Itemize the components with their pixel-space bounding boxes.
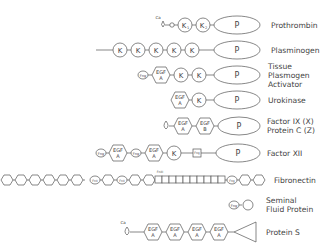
svg-text:Fng: Fng — [229, 179, 235, 183]
svg-text:Fng: Fng — [98, 152, 104, 156]
svg-text:Fng: Fng — [140, 74, 146, 78]
svg-text:FnII: FnII — [119, 179, 125, 183]
svg-text:Fng: Fng — [194, 151, 200, 155]
label-prothrombin: Prothrombin — [271, 21, 318, 30]
gla-drop-icon — [162, 21, 165, 27]
svg-text:A: A — [178, 100, 182, 106]
urokinase-diagram: EGF A K P — [171, 91, 260, 109]
svg-text:Fng: Fng — [231, 204, 237, 208]
label-urokinase: Urokinase — [268, 96, 306, 105]
svg-text:K: K — [172, 47, 177, 55]
svg-text:K: K — [197, 97, 202, 105]
protein-s-diagram: Ca EGF A EGF A EGF A EGF A — [120, 220, 256, 242]
factor-xii-diagram: Fng EGF A Fng EGF A K Fng P — [96, 144, 260, 162]
label-tpa-line2: Plasmogen — [268, 71, 310, 80]
svg-text:A: A — [173, 232, 177, 238]
label-tpa-line3: Activator — [268, 80, 302, 89]
seminal-fluid-protein-diagram: Fng — [229, 200, 253, 210]
svg-text:A: A — [151, 232, 155, 238]
svg-text:A: A — [159, 75, 163, 81]
svg-text:P: P — [235, 96, 240, 105]
label-seminal-line2: Fluid Protein — [266, 205, 313, 214]
label-protein-c: Protein C (Z) — [267, 126, 315, 135]
label-protein-s: Protein S — [266, 228, 300, 237]
svg-text:A: A — [217, 232, 221, 238]
fibronectin-diagram: FnII FnII FnIII Fng — [1, 170, 265, 185]
svg-text:A: A — [152, 153, 156, 159]
label-fibronectin: Fibronectin — [274, 176, 316, 185]
factor-ix-diagram: EGF A EGF B P — [164, 117, 260, 135]
label-plasminogen: Plasminogen — [271, 46, 320, 55]
label-factor-ix: Factor IX (X) — [267, 117, 314, 126]
svg-text:A: A — [116, 153, 120, 159]
loop-icon — [170, 23, 174, 27]
svg-text:K: K — [154, 47, 159, 55]
plasminogen-diagram: K K K K K P — [96, 41, 260, 59]
svg-text:K: K — [118, 47, 123, 55]
tpa-diagram: Fng EGF A K K P — [138, 66, 260, 84]
svg-text:P: P — [237, 122, 242, 131]
svg-text:P: P — [235, 46, 240, 55]
gla-drop-icon — [125, 227, 129, 235]
triangle-domain — [234, 222, 256, 242]
svg-text:Ca: Ca — [120, 220, 126, 225]
svg-text:K: K — [179, 72, 184, 80]
prothrombin-diagram: Ca K 1 K 2 P — [155, 15, 260, 34]
svg-text:2: 2 — [205, 26, 207, 30]
gla-drop-icon — [164, 121, 168, 129]
svg-text:A: A — [195, 232, 199, 238]
svg-text:1: 1 — [187, 26, 189, 30]
label-seminal-line1: Seminal — [266, 196, 297, 205]
svg-text:K: K — [172, 150, 177, 158]
svg-text:K: K — [190, 47, 195, 55]
svg-text:Fng: Fng — [133, 152, 139, 156]
svg-text:K: K — [136, 47, 141, 55]
label-factor-xii: Factor XII — [267, 149, 302, 158]
svg-text:B: B — [203, 126, 207, 132]
svg-text:Ca: Ca — [155, 15, 161, 20]
svg-text:P: P — [236, 149, 241, 158]
svg-text:K: K — [197, 72, 202, 80]
svg-text:FnIII: FnIII — [157, 170, 163, 174]
svg-text:A: A — [181, 126, 185, 132]
svg-text:P: P — [235, 71, 240, 80]
svg-text:P: P — [235, 21, 240, 30]
svg-text:FnII: FnII — [92, 179, 98, 183]
label-tpa-line1: Tissue — [268, 62, 292, 71]
